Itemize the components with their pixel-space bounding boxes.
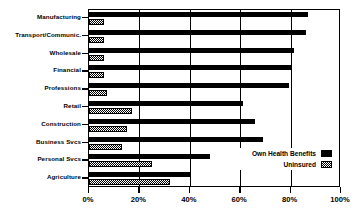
x-axis-label-60pct: 60% [232, 195, 247, 204]
bar-own-health-benefits [89, 154, 210, 159]
y-axis-label-financial: Financial [53, 66, 81, 74]
y-axis-tick [82, 142, 88, 143]
y-axis-tick [82, 177, 88, 178]
hatched-swatch-icon [321, 161, 332, 168]
bar-uninsured [89, 179, 170, 185]
bar-own-health-benefits [89, 12, 308, 17]
legend-label-own-health-benefits: Own Health Benefits [252, 150, 316, 157]
x-axis-label-80pct: 80% [282, 195, 297, 204]
y-axis-label-personal-svcs: Personal Svcs [37, 155, 81, 163]
y-axis-tick [82, 70, 88, 71]
bar-group-row [89, 28, 339, 46]
x-axis-label-100pct: 100% [330, 195, 349, 204]
bar-own-health-benefits [89, 119, 255, 124]
y-axis-label-retail: Retail [64, 102, 81, 110]
bar-uninsured [89, 90, 107, 96]
horizontal-bar-chart: ManufacturingTransport/Communic.Wholesal… [0, 0, 362, 219]
y-axis-label-agriculture: Agriculture [47, 173, 81, 181]
bar-own-health-benefits [89, 83, 289, 88]
bar-own-health-benefits [89, 30, 306, 35]
y-axis-label-wholesale: Wholesale [49, 49, 81, 57]
legend-item-own-health-benefits: Own Health Benefits [216, 148, 332, 159]
y-axis-tick [82, 88, 88, 89]
y-axis-label-construction: Construction [41, 120, 81, 128]
bar-group-row [89, 10, 339, 28]
x-axis-tick [138, 187, 139, 193]
y-axis-tick [82, 124, 88, 125]
legend-label-uninsured: Uninsured [283, 161, 316, 168]
bar-uninsured [89, 19, 104, 25]
y-axis-tick [82, 35, 88, 36]
bar-uninsured [89, 161, 152, 167]
bar-uninsured [89, 72, 104, 78]
y-axis-label-group: ManufacturingTransport/Communic.Wholesal… [0, 9, 81, 187]
y-axis-label-manufacturing: Manufacturing [37, 13, 81, 21]
bar-group-row [89, 63, 339, 81]
solid-black-swatch-icon [321, 150, 332, 157]
bar-own-health-benefits [89, 101, 243, 106]
x-axis-tick [239, 187, 240, 193]
bar-own-health-benefits [89, 172, 191, 177]
bar-own-health-benefits [89, 48, 294, 53]
bar-group-row [89, 46, 339, 64]
y-axis-tick [82, 159, 88, 160]
y-axis-tick [82, 106, 88, 107]
bar-group-row [89, 81, 339, 99]
x-axis-label-0pct: 0% [83, 195, 94, 204]
chart-legend: Own Health Benefits Uninsured [216, 148, 332, 170]
y-axis-label-transport-communic: Transport/Communic. [15, 31, 81, 39]
legend-item-uninsured: Uninsured [216, 159, 332, 170]
bar-uninsured [89, 55, 104, 61]
x-axis-label-40pct: 40% [181, 195, 196, 204]
bar-uninsured [89, 108, 132, 114]
x-axis-tick [340, 187, 341, 193]
x-axis-tick [290, 187, 291, 193]
x-axis-label-20pct: 20% [131, 195, 146, 204]
bar-uninsured [89, 37, 104, 43]
y-axis-tick [82, 17, 88, 18]
bar-group-row [89, 99, 339, 117]
bar-uninsured [89, 144, 122, 150]
bar-own-health-benefits [89, 65, 291, 70]
y-axis-label-professions: Professions [44, 84, 81, 92]
bar-group-row [89, 170, 339, 188]
bar-own-health-benefits [89, 137, 263, 142]
x-axis-tick [189, 187, 190, 193]
y-axis-label-business-svcs: Business Svcs [36, 138, 81, 146]
x-axis-tick [88, 187, 89, 193]
bar-uninsured [89, 126, 127, 132]
y-axis-tick [82, 53, 88, 54]
bar-group-row [89, 117, 339, 135]
